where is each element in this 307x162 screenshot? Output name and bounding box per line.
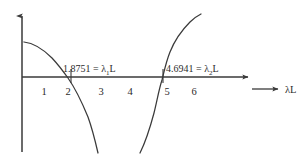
curve-branch-1 [24,42,98,153]
first-root-equals: = [91,63,102,74]
second-root-label: 4.6941 = λ2L [166,63,219,77]
tick-label-3: 3 [98,86,103,97]
figure-canvas: 1 2 3 4 5 6 1.8751 = λ1L 4.6941 = λ2L λL [0,0,307,162]
first-root-value: 1.8751 [63,63,91,74]
tick-label-4: 4 [127,86,133,97]
tick-label-2: 2 [65,86,70,97]
x-axis-title-suffix: L [290,84,296,95]
tick-label-6: 6 [191,86,196,97]
tick-label-5: 5 [164,86,169,97]
x-axis-title: λL [285,84,297,95]
curve-branch-2 [140,14,201,153]
second-root-value: 4.6941 [166,63,194,74]
first-root-suffix: L [110,63,116,74]
tick-label-1: 1 [41,86,46,97]
second-root-suffix: L [213,63,219,74]
graph-figure: 1 2 3 4 5 6 1.8751 = λ1L 4.6941 = λ2L λL [0,0,307,162]
second-root-equals: = [194,63,205,74]
